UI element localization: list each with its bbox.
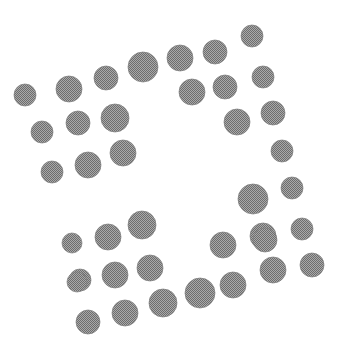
dot-marker: [101, 104, 129, 132]
dot-marker: [261, 101, 285, 125]
dot-marker: [75, 152, 101, 178]
dot-marker: [128, 211, 156, 239]
dot-marker: [41, 161, 63, 183]
dot-marker: [300, 253, 324, 277]
dot-marker: [62, 233, 82, 253]
dot-marker: [31, 121, 53, 143]
dot-marker: [252, 66, 274, 88]
dot-marker: [76, 310, 100, 334]
dot-marker: [110, 140, 136, 166]
dot-marker: [260, 257, 286, 283]
dot-marker: [167, 45, 193, 71]
dot-marker: [179, 79, 205, 105]
dot-marker: [241, 25, 263, 47]
dot-marker: [185, 278, 215, 308]
dot-marker: [102, 262, 128, 288]
dot-marker: [66, 111, 90, 135]
dot-marker: [210, 232, 236, 258]
dot-marker: [67, 272, 87, 292]
dot-marker: [203, 40, 227, 64]
dot-pattern-canvas: [0, 0, 342, 360]
dot-marker: [238, 184, 268, 214]
dot-marker: [213, 75, 237, 99]
dot-marker: [14, 84, 36, 106]
dot-marker: [137, 255, 163, 281]
dot-marker: [112, 300, 138, 326]
dot-marker: [128, 52, 158, 82]
dot-marker: [56, 76, 82, 102]
dot-scatter-plot: [0, 0, 342, 360]
dot-marker: [95, 224, 121, 250]
dot-marker: [281, 177, 303, 199]
dot-marker: [220, 272, 246, 298]
dot-marker: [253, 228, 277, 252]
dot-marker: [271, 140, 293, 162]
dot-marker: [224, 109, 250, 135]
dot-marker: [149, 289, 177, 317]
dot-marker: [94, 66, 118, 90]
dot-marker: [291, 218, 313, 240]
